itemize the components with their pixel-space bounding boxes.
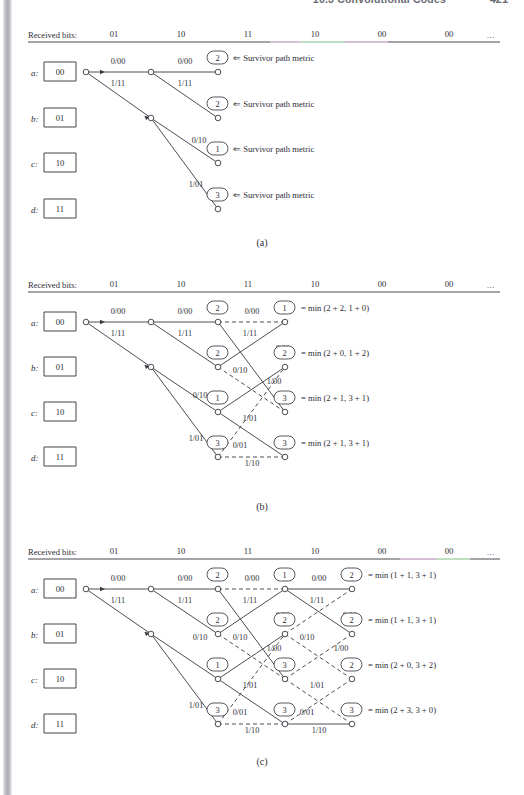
metric-b: 2 — [215, 100, 219, 109]
branch-label-c-b1-s2: 1/01 — [189, 701, 204, 710]
received-bit-c-2: 11 — [244, 546, 252, 556]
received-bit-c-1: 10 — [177, 546, 186, 556]
state-value-b-c: 10 — [56, 407, 65, 417]
survivor-note-d: ⇐ Survivor path metric — [233, 190, 314, 200]
state-value-c-b: 01 — [56, 629, 65, 639]
metric-c-s2-d: 3 — [215, 706, 219, 715]
state-value-a: 00 — [56, 67, 65, 77]
branch-label-c-b0-s4: 0/10 — [300, 633, 315, 642]
branch-label-c-a0-s2: 0/00 — [178, 574, 193, 583]
panel-c-caption: (c) — [256, 756, 267, 768]
branch-label-b-a1-s1: 1/11 — [111, 329, 125, 338]
received-bit-b-3: 10 — [311, 279, 320, 289]
branch-label-b-b0-s2: 0/10 — [193, 391, 208, 400]
branch-label-b-c1-s3: 1/00 — [267, 377, 282, 386]
received-bit-1: 10 — [177, 29, 186, 39]
state-label-b-c: c: — [31, 408, 38, 418]
trellis-edges-b — [86, 320, 285, 457]
received-bits-ellipsis-c: ... — [487, 548, 495, 557]
state-label-b-d: d: — [31, 453, 39, 463]
metric-b-s3-d: 3 — [282, 439, 286, 448]
branch-label-c-b0-s2: 0/10 — [193, 633, 208, 642]
metric-c-s3-d: 3 — [282, 706, 286, 715]
metric-c-s2-c: 1 — [215, 661, 219, 670]
branch-label-c-c1-s3: 1/00 — [267, 644, 282, 653]
state-label-c-b: b: — [31, 630, 39, 640]
metric-c-s2-b: 2 — [215, 616, 219, 625]
state-value-b-a: 00 — [56, 317, 65, 327]
branch-labels-c: 0/00 1/11 0/00 1/11 0/00 1/11 0/00 1/11 … — [111, 574, 357, 735]
branch-label-c-b1-s3: 1/01 — [243, 681, 258, 690]
state-labels-c: a: 00 b: 01 c: 10 d: 11 — [31, 579, 76, 733]
metric-b-s2-b: 2 — [215, 349, 219, 358]
equations-b: = min (2 + 2, 1 + 0) = min (2 + 0, 1 + 2… — [301, 303, 369, 448]
branch-label-b-d0-s3: 0/01 — [233, 441, 248, 450]
branch-label-b-d1-s3: 1/10 — [245, 459, 260, 468]
branch-label-c-a1-s3: 1/11 — [243, 596, 257, 605]
branch-label-c-b1-s4: 1/01 — [310, 681, 325, 690]
equation-c-c: = min (2 + 0, 3 + 2) — [368, 660, 436, 670]
equation-b-a: = min (2 + 2, 1 + 0) — [301, 303, 369, 313]
metric-c-s3-c: 3 — [282, 661, 286, 670]
state-value-c: 10 — [56, 158, 65, 168]
metric-c-s4-a: 2 — [349, 571, 353, 580]
metric-a: 2 — [215, 54, 219, 63]
state-value-b-d: 11 — [56, 452, 64, 462]
branch-label-b-b1-s3: 1/01 — [243, 414, 258, 423]
branch-label-b-b0-s3: 0/10 — [233, 366, 248, 375]
branch-label-c-c1-s4: 1/00 — [334, 644, 349, 653]
received-bits-label-b: Received bits: — [28, 280, 77, 290]
received-bits-header-c: Received bits: 01 10 11 10 00 00 ... — [28, 546, 500, 559]
survivor-note-b: ⇐ Survivor path metric — [233, 99, 314, 109]
metric-c: 1 — [215, 145, 219, 154]
state-label-c-d: d: — [31, 720, 39, 730]
received-bit-c-4: 00 — [378, 546, 387, 556]
branch-label-c-a1-s4: 1/11 — [310, 596, 324, 605]
branch-labels-b: 0/00 1/11 0/00 1/11 0/00 1/11 0/10 1/01 … — [111, 307, 290, 468]
metric-c-s3-a: 1 — [282, 571, 286, 580]
received-bit-c-5: 00 — [445, 546, 454, 556]
received-bits-header-b: Received bits: 01 10 11 10 00 00 ... — [28, 279, 500, 292]
equation-c-a: = min (1 + 1, 3 + 1) — [368, 570, 436, 580]
metric-d: 3 — [215, 191, 219, 200]
state-value-b: 01 — [56, 113, 65, 123]
branch-label-b-a0-s2: 0/00 — [178, 307, 193, 316]
equations-c: = min (1 + 1, 3 + 1) = min (1 + 1, 3 + 1… — [368, 570, 436, 715]
received-bit-c-3: 10 — [311, 546, 320, 556]
branch-label-b1-s2: 1/01 — [189, 180, 204, 189]
metric-b-s2-d: 3 — [215, 439, 219, 448]
metric-c-s4-c: 2 — [349, 661, 353, 670]
received-bit-c-0: 01 — [110, 546, 119, 556]
metric-b-s2-a: 2 — [215, 304, 219, 313]
branch-label-c-d0-s4: 0/01 — [300, 708, 315, 717]
survivor-note-c: ⇐ Survivor path metric — [233, 144, 314, 154]
received-bit-b-0: 01 — [110, 279, 119, 289]
received-bit-b-2: 11 — [244, 279, 252, 289]
branch-label-b-b1-s2: 1/01 — [189, 434, 204, 443]
state-label-a: a: — [31, 68, 39, 78]
branch-label-b0-s2: 0/10 — [192, 136, 207, 145]
panel-c-svg: Received bits: 01 10 11 10 00 00 ... a: … — [0, 535, 524, 790]
state-value-b-b: 01 — [56, 362, 65, 372]
received-bit-5: 00 — [445, 29, 454, 39]
received-bit-b-4: 00 — [378, 279, 387, 289]
received-bit-b-5: 00 — [445, 279, 454, 289]
received-bits-ellipsis-b: ... — [487, 281, 495, 290]
metric-b-s2-c: 1 — [215, 394, 219, 403]
branch-label-a1-s1: 1/11 — [111, 79, 125, 88]
metric-c-s3-b: 2 — [282, 616, 286, 625]
received-bits-label: Received bits: — [28, 30, 77, 40]
panel-c: Received bits: 01 10 11 10 00 00 ... a: … — [0, 535, 524, 790]
equation-c-d: = min (2 + 3, 3 + 0) — [368, 705, 436, 715]
state-value-c-a: 00 — [56, 584, 65, 594]
branch-label-b-a0-s1: 0/00 — [111, 307, 126, 316]
state-labels-a: a: 00 b: 01 c: 10 d: 11 — [31, 62, 76, 218]
state-label-d: d: — [31, 205, 39, 215]
branch-label-c-a1-s2: 1/11 — [178, 596, 192, 605]
equation-b-d: = min (2 + 1, 3 + 1) — [301, 438, 369, 448]
branch-label-c-d1-s4: 1/10 — [312, 726, 327, 735]
received-bits-label-c: Received bits: — [28, 547, 77, 557]
received-bit-3: 10 — [311, 29, 320, 39]
panel-a-caption: (a) — [256, 237, 267, 249]
branch-label-c-a0-s4: 0/00 — [312, 574, 327, 583]
